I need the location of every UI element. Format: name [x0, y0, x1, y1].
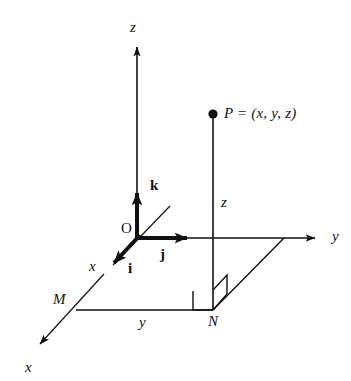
x-axis-lower-line	[40, 274, 104, 344]
x-axis-upper-label: x	[89, 259, 96, 274]
k-vector-label: k	[150, 178, 158, 193]
coordinate-system-figure: z y x x O k j i P = (x, y, z) M N z y	[0, 0, 351, 381]
y-axis-label: y	[332, 229, 339, 244]
right-angle-marker-plane	[193, 291, 213, 310]
y-length-label: y	[139, 315, 146, 330]
j-vector-label: j	[160, 247, 165, 262]
x-axis-lower-label: x	[25, 360, 32, 375]
z-length-label: z	[221, 195, 227, 210]
i-vector-line	[114, 235, 140, 263]
z-axis-label: z	[130, 20, 136, 35]
point-p-dot	[208, 109, 217, 118]
n-to-yaxis-line	[213, 238, 284, 310]
point-p-label: P = (x, y, z)	[224, 106, 296, 121]
origin-label: O	[121, 221, 132, 236]
i-vector-label: i	[128, 261, 132, 276]
point-n-label: N	[208, 314, 218, 329]
point-m-label: M	[53, 292, 66, 307]
diagram-canvas	[0, 0, 351, 381]
right-angle-marker-vertical	[213, 275, 227, 310]
